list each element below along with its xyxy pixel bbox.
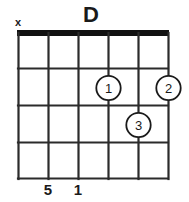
finger-dot-1: 1 [96,76,120,100]
bottom-label-string-3: 1 [74,181,82,198]
finger-dot-3-label: 3 [135,118,142,133]
finger-dot-2: 2 [156,76,180,100]
finger-dot-3: 3 [126,113,150,137]
chord-diagram: D x 1 2 3 [0,0,189,202]
bottom-label-string-2: 5 [44,181,52,198]
string-marker-1-mute: x [15,16,22,28]
chord-name-title: D [83,2,99,27]
finger-dot-2-label: 2 [165,81,172,96]
finger-dot-1-label: 1 [105,81,112,96]
